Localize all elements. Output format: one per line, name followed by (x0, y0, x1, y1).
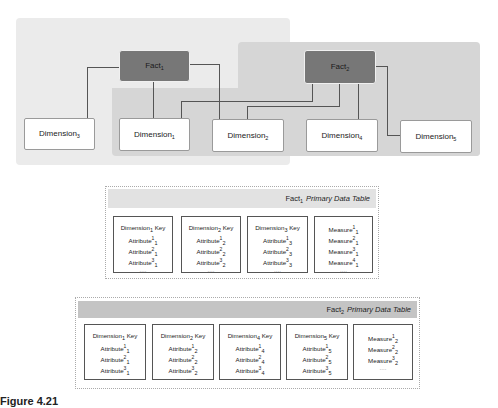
fact1-measures-card: Measure11 Measure21 Measure31 Measure41 … (314, 216, 373, 273)
ellipsis: .... (340, 266, 347, 274)
attribute-row: Attribute13 (263, 233, 292, 244)
ellipsis: .... (112, 374, 119, 382)
dimension5-key-card: Dimension5 Key Attribute15 Attribute25 A… (286, 324, 348, 380)
fact1-table-header: Fact1Primary Data Table (108, 189, 376, 208)
measure-row: Measure41 (329, 255, 359, 266)
attribute-row: Attribute34 (236, 363, 265, 374)
connector-fact1-dim2-v (219, 64, 220, 119)
ellipsis: .... (380, 364, 387, 373)
dimension3-key-card: Dimension3 Key Attribute13 Attribute23 A… (247, 216, 308, 273)
dimension2-label: Dimension2 (228, 131, 269, 141)
fact1-primary-data-table: Fact1Primary Data Table Dimension1 Key A… (105, 186, 379, 279)
attribute-row: Attribute23 (263, 244, 292, 255)
measure-row: Measure22 (368, 342, 398, 353)
card-key: Dimension1 Key (93, 330, 138, 341)
attribute-row: Attribute33 (263, 255, 292, 266)
measure-row: Measure21 (329, 233, 359, 244)
dimension4-key-card: Dimension4 Key Attribute14 Attribute24 A… (219, 324, 281, 380)
dimension1-key-card: Dimension1 Key Attribute11 Attribute21 A… (84, 324, 146, 380)
dimension1-label: Dimension1 (134, 130, 175, 140)
fact1-label: Fact1 (145, 61, 164, 71)
connector-fact2-dim1-h (181, 101, 313, 102)
dimension2-key-card: Dimension2 Key Attribute12 Attribute22 A… (152, 324, 214, 380)
dimension2-key-card: Dimension2 Key Attribute12 Attribute22 A… (181, 216, 241, 273)
attribute-row: Attribute24 (236, 352, 265, 363)
connector-fact1-dim1-v (153, 81, 154, 118)
card-key: Dimension5 Key (295, 330, 340, 341)
attribute-row: Attribute14 (236, 341, 265, 352)
connector-fact2-dim2-v1 (339, 83, 340, 107)
fact2-label: Fact2 (331, 62, 350, 72)
card-key: Dimension2 Key (189, 222, 234, 233)
ellipsis: .... (247, 374, 254, 382)
measure-row: Measure31 (329, 244, 359, 255)
fact2-measures-card: Measure12 Measure22 Measure32 .... (353, 324, 413, 380)
measure-row: Measure32 (368, 353, 398, 364)
connector-fact1-dim3-v (87, 67, 88, 118)
dimension5-box: Dimension5 (400, 120, 472, 153)
connector-fact2-dim4-v (358, 83, 359, 119)
connector-fact2-dim5-h1 (375, 66, 387, 67)
fact1-box: Fact1 (119, 50, 190, 82)
card-key: Dimension2 Key (161, 330, 206, 341)
dimension1-box: Dimension1 (119, 118, 190, 151)
figure-caption: Figure 4.21 (0, 394, 58, 408)
dimension3-label: Dimension3 (39, 129, 80, 139)
attribute-row: Attribute11 (101, 341, 130, 352)
fact2-box: Fact2 (304, 50, 376, 84)
connector-fact1-dim3-h (87, 67, 120, 68)
connector-fact2-dim5-h2 (387, 135, 401, 136)
attribute-row: Attribute31 (129, 255, 158, 266)
fact2-table-title: Fact2Primary Data Table (326, 305, 411, 315)
figure-label: Figure 4.21 (0, 395, 58, 407)
connector-fact2-dim1-v2 (181, 101, 182, 119)
attribute-row: Attribute31 (101, 363, 130, 374)
attribute-row: Attribute25 (303, 352, 332, 363)
attribute-row: Attribute12 (197, 233, 226, 244)
dimension3-box: Dimension3 (24, 118, 95, 150)
connector-fact2-dim1-v1 (312, 83, 313, 101)
attribute-row: Attribute15 (303, 341, 332, 352)
attribute-row: Attribute12 (169, 341, 198, 352)
ellipsis: .... (274, 266, 281, 274)
connector-fact2-dim5-v (387, 66, 388, 135)
card-key: Dimension4 Key (228, 330, 273, 341)
dimension2-box: Dimension2 (212, 119, 284, 152)
dimension5-label: Dimension5 (416, 132, 457, 142)
fact2-table-header: Fact2Primary Data Table (78, 301, 417, 318)
measure-row: Measure11 (329, 222, 359, 233)
attribute-row: Attribute22 (169, 352, 198, 363)
ellipsis: .... (140, 266, 147, 274)
connector-fact2-dim2-v2 (247, 106, 248, 119)
ellipsis: .... (180, 374, 187, 382)
ellipsis: .... (208, 266, 215, 274)
attribute-row: Attribute35 (303, 363, 332, 374)
dimension4-label: Dimension4 (322, 131, 363, 141)
dimension1-key-card: Dimension1 Key Attribute11 Attribute21 A… (113, 216, 173, 273)
attribute-row: Attribute32 (197, 255, 226, 266)
connector-fact1-dim2-h (189, 64, 219, 65)
attribute-row: Attribute32 (169, 363, 198, 374)
card-key: Dimension1 Key (121, 222, 166, 233)
fact1-table-title: Fact1Primary Data Table (285, 194, 370, 204)
attribute-row: Attribute21 (129, 244, 158, 255)
dimension4-box: Dimension4 (306, 119, 378, 152)
attribute-row: Attribute21 (101, 352, 130, 363)
attribute-row: Attribute11 (129, 233, 158, 244)
card-key: Dimension3 Key (255, 222, 300, 233)
attribute-row: Attribute22 (197, 244, 226, 255)
ellipsis: .... (314, 374, 321, 382)
fact2-primary-data-table: Fact2Primary Data Table Dimension1 Key A… (75, 297, 420, 389)
measure-row: Measure12 (368, 331, 398, 342)
connector-fact2-dim2-h (247, 106, 340, 107)
